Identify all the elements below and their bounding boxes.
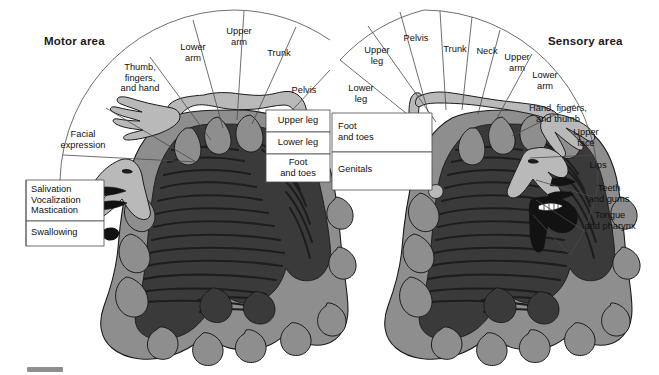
sensory-label-pelvis: Pelvis: [392, 33, 440, 44]
motor-label-foot-and-toes: Foot and toes: [268, 157, 328, 178]
sensory-label-foot-and-toes: Foot and toes: [338, 121, 400, 142]
bottom-edge-marker: [27, 367, 63, 372]
sensory-label-hand-fingers-thumb: Hand, fingers, and thumb: [516, 103, 600, 124]
motor-label-upper-leg: Upper leg: [268, 115, 328, 126]
sensory-label-genitals: Genitals: [338, 164, 400, 175]
homunculus-diagram: Motor area Sensory area Lower arm Upper …: [0, 0, 659, 375]
motor-label-swallowing: Swallowing: [31, 227, 105, 238]
sensory-label-tongue-and-pharynx: Tongue and pharynx: [572, 210, 648, 231]
motor-label-lower-arm: Lower arm: [167, 42, 219, 63]
motor-label-facial-expression: Facial expression: [48, 129, 118, 150]
sensory-label-lower-leg: Lower leg: [338, 83, 384, 104]
motor-label-trunk: Trunk: [255, 48, 303, 59]
motor-label-salivation-vocalization-mastication: Salivation Vocalization Mastication: [31, 184, 107, 216]
motor-area-title: Motor area: [44, 35, 105, 47]
motor-label-thumb-fingers-hand: Thumb, fingers, and hand: [104, 62, 176, 94]
sensory-label-upper-face: Upper face: [560, 127, 612, 148]
motor-label-pelvis: Pelvis: [280, 85, 328, 96]
motor-label-upper-arm: Upper arm: [213, 26, 265, 47]
sensory-area-title: Sensory area: [548, 35, 623, 47]
sensory-label-upper-leg: Upper leg: [355, 45, 399, 66]
motor-label-lower-leg: Lower leg: [268, 137, 328, 148]
sensory-label-lower-arm: Lower arm: [522, 70, 568, 91]
sensory-label-teeth-and-gums: Teeth and gums: [578, 183, 640, 204]
sensory-label-lips: Lips: [578, 160, 618, 171]
